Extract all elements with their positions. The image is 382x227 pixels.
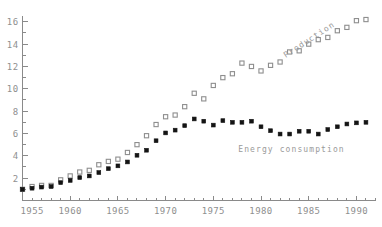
data-point xyxy=(164,115,168,119)
y-tick-label: 10 xyxy=(7,84,19,94)
y-tick-label: 8 xyxy=(13,107,19,117)
data-point xyxy=(364,17,368,21)
data-point xyxy=(278,60,282,64)
data-point xyxy=(183,124,187,128)
data-point xyxy=(116,164,120,168)
data-point xyxy=(30,186,34,190)
data-point xyxy=(240,61,244,65)
y-tick-label: 6 xyxy=(13,129,19,139)
y-tick-label: 4 xyxy=(13,151,19,161)
data-point xyxy=(364,120,368,124)
data-point xyxy=(126,160,130,164)
y-tick-label: 12 xyxy=(7,62,19,72)
data-point xyxy=(192,91,196,95)
chart-container: 246810121416 195519601965197019751980198… xyxy=(0,0,382,227)
data-point xyxy=(106,159,110,163)
series-energy-consumption-points xyxy=(21,117,368,191)
y-axis: 246810121416 xyxy=(7,16,28,201)
data-point xyxy=(192,117,196,121)
data-point xyxy=(250,119,254,123)
data-point xyxy=(288,132,292,136)
y-tick-label: 14 xyxy=(7,40,19,50)
data-point xyxy=(164,131,168,135)
data-point xyxy=(87,168,91,172)
data-point xyxy=(97,163,101,167)
y-tick-label: 2 xyxy=(13,174,19,184)
data-point xyxy=(316,132,320,136)
data-point xyxy=(211,123,215,127)
data-point xyxy=(106,167,110,171)
data-point xyxy=(230,120,234,124)
data-point xyxy=(240,120,244,124)
x-tick-label: 1965 xyxy=(106,206,129,216)
data-point xyxy=(269,129,273,133)
data-point xyxy=(173,128,177,132)
data-point xyxy=(355,121,359,125)
x-tick-label: 1990 xyxy=(345,206,368,216)
series-label: Energy consumption xyxy=(238,145,345,154)
data-point xyxy=(78,176,82,180)
x-axis: 19551960196519701975198019851990 xyxy=(21,196,376,216)
data-point xyxy=(345,25,349,29)
data-point xyxy=(145,148,149,152)
x-tick-label: 1970 xyxy=(154,206,177,216)
data-point xyxy=(307,129,311,133)
y-tick-label: 16 xyxy=(7,17,19,27)
data-point xyxy=(40,185,44,189)
x-tick-label: 1975 xyxy=(202,206,225,216)
data-point xyxy=(173,113,177,117)
x-tick-label: 1955 xyxy=(21,206,44,216)
data-point xyxy=(259,125,263,129)
data-point xyxy=(78,170,82,174)
data-point xyxy=(202,119,206,123)
data-point xyxy=(144,134,148,138)
series-production-points xyxy=(20,17,368,191)
data-point xyxy=(211,83,215,87)
data-point xyxy=(202,97,206,101)
data-point xyxy=(230,72,234,76)
data-point xyxy=(97,171,101,175)
data-point xyxy=(326,35,330,39)
data-point xyxy=(249,64,253,68)
data-point xyxy=(297,129,301,133)
data-point xyxy=(116,157,120,161)
data-point xyxy=(345,122,349,126)
x-tick-label: 1960 xyxy=(59,206,82,216)
data-point xyxy=(335,29,339,33)
x-tick-label: 1985 xyxy=(297,206,320,216)
data-point xyxy=(87,174,91,178)
data-point xyxy=(21,187,25,191)
data-point xyxy=(125,150,129,154)
data-point xyxy=(154,122,158,126)
data-point xyxy=(68,174,72,178)
data-point xyxy=(135,143,139,147)
data-point xyxy=(154,139,158,143)
data-point xyxy=(326,128,330,132)
data-point xyxy=(268,63,272,67)
data-point xyxy=(49,185,53,189)
data-point xyxy=(221,119,225,123)
data-point xyxy=(278,132,282,136)
data-point xyxy=(135,153,139,157)
x-tick-label: 1980 xyxy=(249,206,272,216)
scatter-plot: 246810121416 195519601965197019751980198… xyxy=(0,0,382,227)
data-point xyxy=(259,69,263,73)
data-point xyxy=(335,125,339,129)
data-point xyxy=(68,178,72,182)
data-point xyxy=(59,181,63,185)
data-point xyxy=(354,19,358,23)
data-point xyxy=(221,76,225,80)
data-point xyxy=(183,105,187,109)
